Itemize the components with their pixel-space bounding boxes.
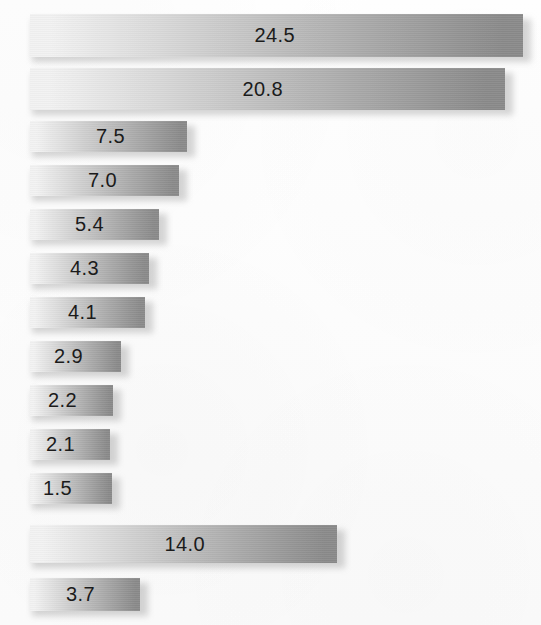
bar-value-label: 3.7 <box>25 578 95 611</box>
bar-row: 20.8 <box>0 68 541 110</box>
bar-chart-figure: 24.520.87.57.05.44.34.12.92.22.11.514.03… <box>0 0 541 625</box>
bar-value-label: 14.0 <box>135 525 205 563</box>
bar-row: 7.0 <box>0 165 541 196</box>
bar-row: 3.7 <box>0 578 541 611</box>
bar-row: 2.1 <box>0 429 541 460</box>
bar-row: 2.2 <box>0 385 541 416</box>
plot-area: 24.520.87.57.05.44.34.12.92.22.11.514.03… <box>0 0 541 625</box>
bar-row: 2.9 <box>0 341 541 372</box>
bar-value-label: 4.1 <box>27 297 97 328</box>
bar-row: 24.5 <box>0 14 541 57</box>
bar-row: 5.4 <box>0 209 541 240</box>
bar-value-label: 20.8 <box>213 68 283 110</box>
bar-value-label: 2.2 <box>7 385 77 416</box>
bar-value-label: 2.9 <box>13 341 83 372</box>
bar-row: 1.5 <box>0 473 541 504</box>
bar-value-label: 2.1 <box>5 429 75 460</box>
bar-value-label: 7.0 <box>47 165 117 196</box>
bar-value-label: 1.5 <box>2 473 72 504</box>
bar-value-label: 7.5 <box>55 121 125 152</box>
bar-value-label: 5.4 <box>34 209 104 240</box>
bar-row: 7.5 <box>0 121 541 152</box>
bar-row: 14.0 <box>0 525 541 563</box>
bar-value-label: 4.3 <box>29 253 99 284</box>
bar-row: 4.3 <box>0 253 541 284</box>
bar-row: 4.1 <box>0 297 541 328</box>
bar-value-label: 24.5 <box>225 14 295 57</box>
